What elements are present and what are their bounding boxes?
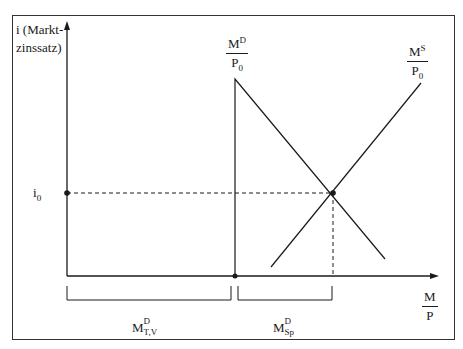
x-axis-label: M P — [422, 290, 438, 323]
msp-sup: D — [285, 316, 292, 326]
bracket-speculative-demand — [238, 286, 332, 300]
ms-den-sub: 0 — [419, 71, 424, 81]
i0-label: i0 — [33, 185, 41, 200]
y-axis-arrow-icon — [64, 21, 70, 30]
transaction-demand-label: MDT,V — [132, 316, 164, 338]
y-axis-label-line2: zinssatz) — [16, 40, 63, 55]
y-axis-label-line1: i (Markt- — [16, 22, 63, 37]
i0-point — [64, 190, 70, 196]
mtv-base: M — [132, 320, 144, 335]
mtv-sup: D — [144, 316, 151, 326]
x-axis-num: M — [422, 290, 438, 307]
msp-base: M — [273, 320, 285, 335]
md-den-sub: 0 — [238, 63, 243, 73]
y-axis-label: i (Markt- zinssatz) — [16, 22, 63, 55]
ms-base: M — [409, 44, 421, 59]
equilibrium-point — [330, 190, 336, 196]
x-axis-arrow-icon — [430, 273, 439, 279]
md-base: M — [228, 36, 240, 51]
money-supply-label: MS P0 — [407, 45, 428, 78]
speculative-demand-label: MDSp — [273, 316, 305, 338]
money-demand-label: MD P0 — [226, 37, 248, 70]
ms-sup: S — [421, 43, 426, 53]
md-sup: D — [240, 35, 247, 45]
money-supply-line — [271, 83, 421, 267]
msp-sub: Sp — [285, 327, 295, 337]
x-axis-den: P — [422, 307, 438, 323]
i0-subscript: 0 — [37, 193, 42, 203]
bracket-transaction-demand — [67, 286, 231, 300]
kink-point — [233, 274, 238, 279]
money-demand-curve — [235, 79, 385, 276]
ms-den-base: P — [411, 63, 418, 78]
mtv-sub: T,V — [144, 327, 158, 337]
